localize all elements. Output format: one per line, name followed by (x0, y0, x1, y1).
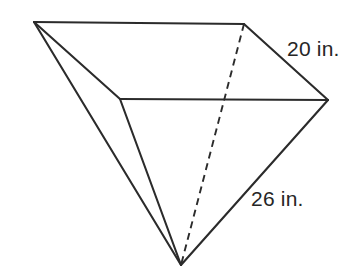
dimension-label-20in: 20 in. (287, 38, 340, 59)
geometry-figure: 20 in. 26 in. (0, 0, 361, 271)
dimension-label-26in: 26 in. (251, 188, 304, 209)
